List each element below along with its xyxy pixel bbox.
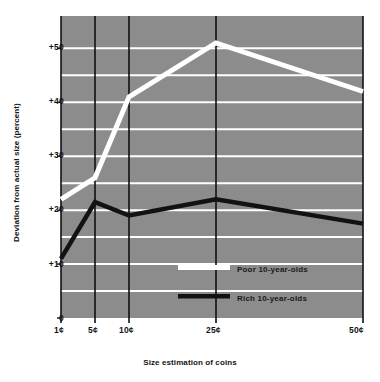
x-axis-title: Size estimation of coins	[0, 358, 380, 367]
legend-swatch-poor	[178, 265, 230, 270]
x-tick-label-1c: 1¢	[54, 325, 64, 335]
y-tick-label-30: +30	[24, 150, 64, 160]
x-tick-label-50c: 50¢	[349, 325, 364, 335]
y-tick-label-0: 0	[24, 313, 64, 323]
x-tick-label-10c: 10¢	[119, 325, 134, 335]
y-axis-title: Deviation from actual size (percent)	[12, 73, 21, 273]
y-tick-label-10: +10	[24, 259, 64, 269]
y-tick-label-40: +40	[24, 96, 64, 106]
plot-background	[61, 16, 363, 318]
legend-label-poor: Poor 10-year-olds	[237, 265, 308, 274]
legend-label-rich: Rich 10-year-olds	[237, 294, 307, 303]
legend-swatch-rich	[178, 294, 230, 299]
y-tick-label-20: +20	[24, 204, 64, 214]
x-tick-label-25c: 25¢	[206, 325, 221, 335]
x-tick-label-5c: 5¢	[88, 325, 98, 335]
y-tick-label-50: +50	[24, 42, 64, 52]
chart-container: Deviation from actual size (percent) Siz…	[0, 0, 380, 382]
